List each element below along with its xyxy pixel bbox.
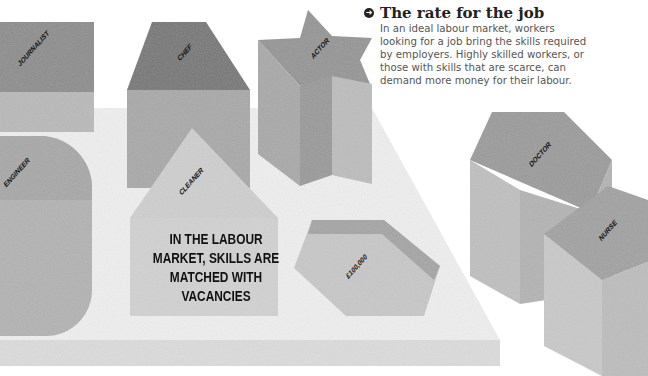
arrow-circle-icon: ➜	[364, 8, 374, 18]
caption-title: The rate for the job	[380, 4, 544, 22]
caption: ➜ The rate for the job In an ideal labou…	[364, 4, 594, 87]
caption-body: In an ideal labour market, workers looki…	[380, 22, 594, 87]
actor-block	[258, 10, 372, 186]
engineer-block	[0, 136, 92, 336]
main-message: IN THE LABOUR MARKET, SKILLS ARE MATCHED…	[150, 230, 281, 306]
